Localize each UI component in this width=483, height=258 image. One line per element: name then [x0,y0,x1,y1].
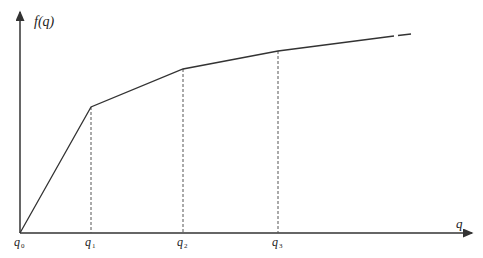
svg-text:3: 3 [279,242,283,250]
svg-text:q: q [177,235,183,249]
y-axis-label: f(q) [34,14,55,30]
tick-label-q0: q 0 [14,235,25,250]
x-axis-label: q [456,216,463,231]
svg-text:q: q [14,235,20,249]
tick-label-q1: q 1 [85,235,96,250]
curve-tail [398,34,411,36]
piecewise-linear-diagram: f(q) q q 0 q 1 q 2 q 3 [0,0,483,258]
svg-text:q: q [272,235,278,249]
piecewise-curve [20,36,394,233]
svg-text:1: 1 [92,242,96,250]
tick-label-q2: q 2 [177,235,188,250]
svg-text:q: q [85,235,91,249]
tick-label-q3: q 3 [272,235,283,250]
svg-text:0: 0 [21,242,25,250]
svg-text:2: 2 [184,242,188,250]
